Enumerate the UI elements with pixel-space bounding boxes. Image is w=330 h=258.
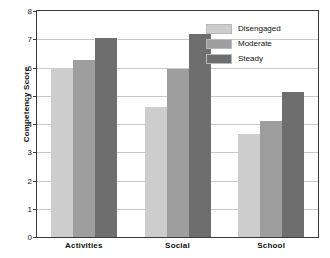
bar-school-moderate	[260, 121, 282, 237]
x-tick-label-activities: Activities	[37, 241, 131, 250]
bar-school-disengaged	[238, 134, 260, 237]
bar-activities-disengaged	[51, 68, 73, 238]
bar-social-disengaged	[145, 107, 167, 237]
y-tick-label: 0	[18, 233, 32, 242]
legend-label: Moderate	[238, 39, 272, 48]
legend-swatch-moderate	[206, 39, 232, 49]
bar-school-steady	[282, 92, 304, 237]
x-tick-label-school: School	[224, 241, 318, 250]
legend-item-disengaged: Disengaged	[206, 22, 281, 35]
bar-activities-steady	[95, 38, 117, 237]
x-tick-label-social: Social	[131, 241, 225, 250]
y-tick-mark	[33, 237, 37, 238]
y-tick-label: 5	[18, 91, 32, 100]
legend-label: Steady	[238, 54, 263, 63]
y-tick-label: 2	[18, 176, 32, 185]
bar-activities-moderate	[73, 60, 95, 237]
y-tick-label: 1	[18, 204, 32, 213]
bar-chart: Competency Score 012345678 ActivitiesSoc…	[0, 0, 330, 258]
legend: DisengagedModerateSteady	[206, 22, 281, 67]
y-tick-label: 8	[18, 7, 32, 16]
y-tick-label: 7	[18, 35, 32, 44]
bar-social-moderate	[167, 69, 189, 237]
legend-item-moderate: Moderate	[206, 37, 281, 50]
legend-item-steady: Steady	[206, 52, 281, 65]
y-tick-label: 4	[18, 120, 32, 129]
legend-swatch-disengaged	[206, 24, 232, 34]
bar-group	[51, 11, 117, 237]
legend-swatch-steady	[206, 54, 232, 64]
bar-group	[145, 11, 211, 237]
y-tick-label: 6	[18, 63, 32, 72]
y-tick-label: 3	[18, 148, 32, 157]
legend-label: Disengaged	[238, 24, 281, 33]
